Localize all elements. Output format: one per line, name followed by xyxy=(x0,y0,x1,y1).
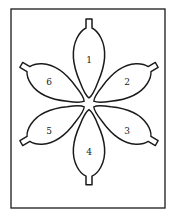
petal-label-1: 1 xyxy=(86,55,92,65)
petal-4: 4 xyxy=(73,110,104,185)
petal-label-2: 2 xyxy=(124,77,130,87)
petal-label-3: 3 xyxy=(124,126,130,136)
petal-label-6: 6 xyxy=(46,77,52,87)
petal-label-5: 5 xyxy=(46,126,52,136)
petal-1: 1 xyxy=(73,19,104,98)
petal-diagram: 1 2 3 4 5 6 xyxy=(0,0,178,216)
petal-label-4: 4 xyxy=(86,147,92,157)
